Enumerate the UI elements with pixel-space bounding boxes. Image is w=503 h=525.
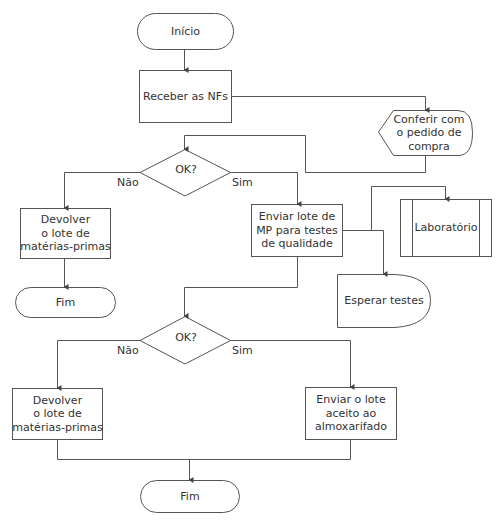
edge-send-to-wait: [372, 231, 384, 275]
laboratory-predefined-shape: [401, 200, 492, 257]
check-order-display-shape: [379, 111, 473, 156]
edge-send-to-decision-2: [185, 257, 298, 317]
end-2-terminal-shape: [141, 481, 240, 513]
decision-1-yes-label: Sim: [232, 177, 253, 189]
wait-tests-delay-shape: [338, 275, 431, 328]
send-to-warehouse-process-shape: [306, 388, 397, 440]
decision-1-no-label: Não: [117, 177, 139, 189]
flowchart-canvas: [0, 0, 503, 525]
edge-merge-to-end-2: [58, 440, 351, 460]
send-mp-tests-process-shape: [252, 205, 343, 257]
return-lot-2-process-shape: [13, 389, 103, 440]
edge-send-to-laboratory: [343, 187, 446, 231]
decision-2-no-label: Não: [117, 345, 139, 357]
decision-1-diamond: [140, 150, 231, 197]
start-terminal-shape: [138, 14, 234, 50]
edge-check-to-decision-1: [185, 136, 426, 173]
decision-2-yes-label: Sim: [232, 345, 253, 357]
end-1-terminal-shape: [16, 288, 116, 318]
edge-receive-to-check: [232, 97, 426, 111]
receive-nfs-process-shape: [140, 71, 232, 123]
decision-2-diamond: [140, 317, 231, 365]
return-lot-1-process-shape: [21, 209, 111, 259]
